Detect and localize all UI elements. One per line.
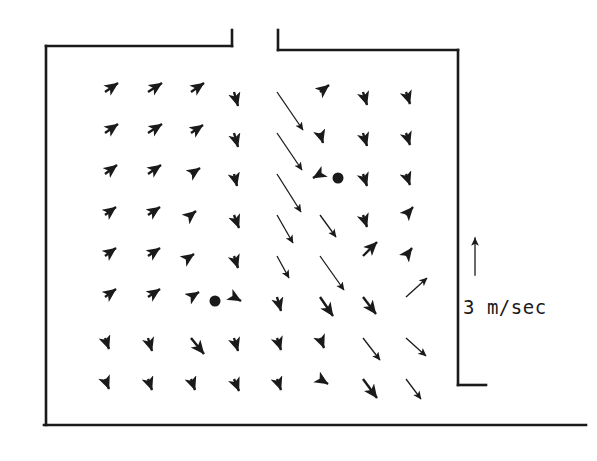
velocity-vector — [191, 168, 200, 174]
velocity-vector — [320, 379, 328, 384]
velocity-vector — [105, 289, 116, 297]
velocity-vector — [148, 379, 152, 390]
velocity-vector — [105, 124, 118, 133]
velocity-vector — [105, 248, 116, 256]
velocity-vector — [234, 215, 239, 228]
velocity-vector — [320, 297, 333, 316]
velocity-vector — [406, 174, 410, 185]
velocity-vector — [363, 297, 376, 314]
velocity-vector — [363, 133, 367, 146]
velocity-vector — [234, 297, 241, 301]
velocity-vector — [363, 215, 367, 227]
velocity-vector — [105, 338, 109, 349]
velocity-vector — [191, 83, 204, 92]
velocity-vector — [234, 92, 238, 106]
velocity-vector — [105, 379, 109, 389]
velocity-vector — [148, 338, 152, 351]
velocity-vector — [406, 207, 413, 215]
velocity-vector — [406, 133, 410, 145]
velocity-vector — [148, 83, 162, 92]
velocity-vector — [406, 338, 426, 356]
velocity-vector — [406, 92, 410, 104]
velocity-vector — [363, 92, 367, 105]
velocity-vector — [191, 379, 195, 390]
velocity-vector — [363, 242, 377, 256]
velocity-vector — [191, 292, 199, 297]
vector-field-canvas — [0, 0, 597, 461]
velocity-vector — [277, 297, 281, 311]
velocity-vector — [191, 338, 204, 354]
right-vortex-center — [333, 173, 344, 184]
velocity-vector — [105, 207, 116, 215]
velocity-vector — [234, 133, 238, 147]
velocity-vector — [105, 83, 118, 92]
velocity-vector — [277, 92, 303, 130]
velocity-vector — [277, 379, 281, 390]
velocity-vector — [320, 133, 323, 143]
velocity-vector — [406, 278, 427, 297]
velocity-vector — [191, 125, 203, 133]
velocity-vector — [320, 256, 344, 290]
velocity-vector — [277, 256, 289, 278]
velocity-vector — [277, 133, 302, 170]
velocity-vector — [148, 289, 160, 297]
velocity-vector — [406, 379, 421, 399]
scale-label: 3 m/sec — [463, 296, 547, 318]
vortex-center-markers — [210, 173, 344, 307]
velocity-vector — [191, 254, 194, 256]
velocity-vector — [320, 85, 329, 92]
velocity-vector — [277, 338, 281, 350]
velocity-vector — [363, 338, 380, 360]
velocity-vector — [148, 248, 160, 256]
enclosure-walls — [44, 30, 586, 425]
velocity-vector — [148, 124, 162, 133]
velocity-vector — [234, 256, 238, 268]
velocity-vector — [277, 174, 301, 212]
velocity-vector — [320, 338, 324, 348]
velocity-vector — [363, 379, 377, 398]
velocity-vectors — [105, 83, 427, 399]
velocity-vector — [234, 174, 237, 186]
velocity-field-figure: 3 m/sec — [0, 0, 597, 461]
velocity-vector — [191, 211, 196, 215]
velocity-vector — [406, 248, 412, 256]
velocity-vector — [234, 379, 239, 391]
velocity-vector — [277, 215, 293, 243]
velocity-vector — [234, 338, 238, 351]
velocity-vector — [320, 215, 336, 237]
velocity-vector — [363, 174, 367, 186]
velocity-vector — [148, 207, 160, 215]
velocity-vector — [148, 165, 161, 174]
left-vortex-center — [210, 296, 221, 307]
velocity-vector — [105, 165, 117, 174]
velocity-vector — [313, 174, 320, 178]
